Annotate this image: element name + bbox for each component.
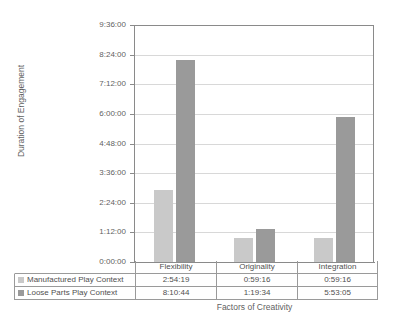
bar-originality-series-1 (234, 238, 253, 262)
bar-integration-series-2 (336, 117, 355, 262)
y-axis-tick-label: 3:36:00 (74, 169, 126, 177)
table-row: Manufactured Play Context2:54:190:59:160… (14, 274, 378, 287)
table-header-originality: Originality (216, 261, 297, 274)
y-axis-tick-label-wrap: 1:12:00 (70, 228, 126, 236)
table-value-cell: 0:59:16 (216, 274, 297, 287)
y-axis-tick-label: 7:12:00 (74, 80, 126, 88)
y-axis-tick-label: 8:24:00 (74, 51, 126, 59)
y-axis-tick-label: 9:36:00 (74, 21, 126, 29)
table-corner-cell (14, 261, 135, 274)
legend-swatch-icon (18, 277, 24, 283)
bar-originality-series-2 (256, 229, 275, 262)
table-value-cell: 5:53:05 (297, 287, 378, 300)
y-axis-tick-label-wrap: 2:24:00 (70, 199, 126, 207)
y-axis-tick-label: 4:48:00 (74, 140, 126, 148)
table-value-cell: 0:59:16 (297, 274, 378, 287)
table-header-integration: Integration (297, 261, 378, 274)
y-axis-tick-label-wrap: 3:36:00 (70, 169, 126, 177)
bar-series-layer (135, 25, 374, 262)
y-axis-tick-label-wrap: 9:36:00 (70, 21, 126, 29)
bar-flexibility-series-2 (176, 60, 195, 262)
legend-swatch-icon (18, 290, 24, 296)
y-axis-tick-label-wrap: 7:12:00 (70, 80, 126, 88)
y-axis-tick-label: 1:12:00 (74, 228, 126, 236)
table-value-cell: 1:19:34 (216, 287, 297, 300)
legend-label: Manufactured Play Context (27, 274, 124, 286)
bar-integration-series-1 (314, 238, 333, 262)
table-row: Loose Parts Play Context8:10:441:19:345:… (14, 287, 378, 300)
legend-entry-1: Manufactured Play Context (14, 274, 135, 287)
bar-chart-figure: 0:00:001:12:002:24:003:36:004:48:006:00:… (0, 0, 394, 321)
table-value-cell: 8:10:44 (135, 287, 216, 300)
y-axis-tick-label: 2:24:00 (74, 199, 126, 207)
data-table-legend: FlexibilityOriginalityIntegrationManufac… (14, 261, 378, 300)
y-axis-tick-label-wrap: 4:48:00 (70, 140, 126, 148)
table-value-cell: 2:54:19 (135, 274, 216, 287)
legend-entry-2: Loose Parts Play Context (14, 287, 135, 300)
y-axis-title: Duration of Engagement (16, 46, 26, 176)
table-header-flexibility: Flexibility (135, 261, 216, 274)
table-row: FlexibilityOriginalityIntegration (14, 261, 378, 274)
x-axis-title: Factors of Creativity (135, 302, 374, 312)
y-axis-tick-label-wrap: 6:00:00 (70, 110, 126, 118)
legend-label: Loose Parts Play Context (27, 287, 117, 299)
y-axis-tick-label-wrap: 8:24:00 (70, 51, 126, 59)
bar-flexibility-series-1 (154, 190, 173, 262)
y-axis-tick-label: 6:00:00 (74, 110, 126, 118)
